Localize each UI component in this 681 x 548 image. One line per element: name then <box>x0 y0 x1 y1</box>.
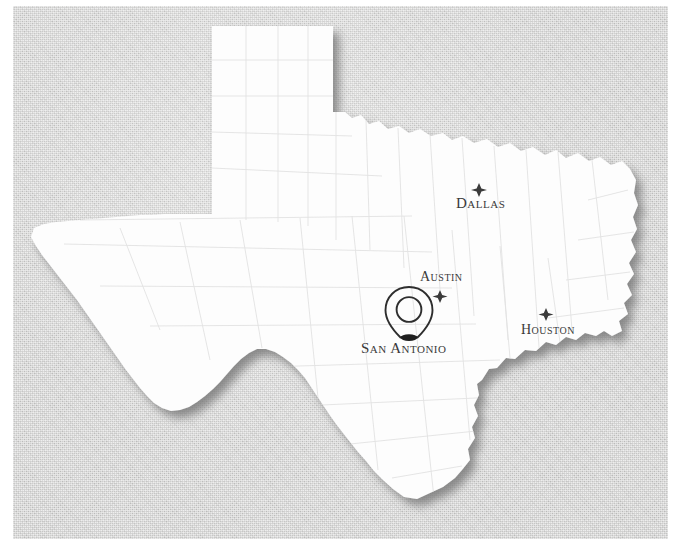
city-label-austin: Austin <box>420 270 463 284</box>
texas-map-figure: Dallas Austin Houston San Antonio <box>0 0 681 548</box>
city-label-houston: Houston <box>521 323 575 337</box>
city-label-dallas: Dallas <box>456 196 505 211</box>
texas-map-graphic <box>0 0 681 548</box>
city-label-san-antonio: San Antonio <box>361 341 446 356</box>
texas-landmass <box>31 26 638 499</box>
